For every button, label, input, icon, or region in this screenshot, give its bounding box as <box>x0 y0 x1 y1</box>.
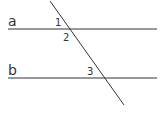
angle-1-label: 1 <box>55 17 61 28</box>
angle-3-label: 3 <box>87 66 93 77</box>
line-b-label: b <box>8 62 17 78</box>
diagram-canvas: a b 1 2 3 <box>0 0 163 114</box>
angle-2-label: 2 <box>63 32 69 43</box>
line-a-label: a <box>8 13 17 29</box>
